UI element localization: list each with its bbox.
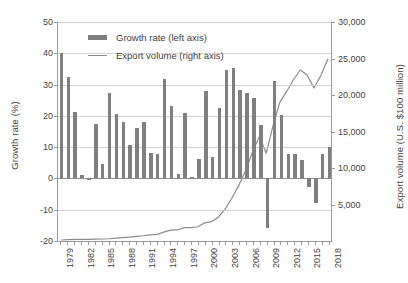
x-tick-mark-2017 [322,242,323,245]
bar-1983 [87,178,90,179]
bar-2012 [287,154,290,179]
legend-label-export-volume: Export volume (right axis) [116,50,224,61]
bar-2005 [238,90,241,179]
y-left-tick-label: 30 [43,80,53,90]
x-tick-label-2012: 2012 [292,248,302,268]
bar-1990 [135,128,138,178]
x-tick-mark-1980 [67,242,68,245]
gridline-50 [58,22,331,23]
x-tick-mark-2004 [232,242,233,245]
y-axis-right-title: Export volume (U.S. $100 million) [394,57,405,217]
x-tick-label-2003: 2003 [230,248,240,268]
bar-2018 [328,147,331,178]
x-tick-label-1985: 1985 [106,248,116,268]
bar-1979 [60,53,63,178]
x-tick-mark-2003 [225,242,226,245]
bar-1996 [177,174,180,179]
x-tick-mark-1985 [102,242,103,245]
x-tick-mark-1995 [170,242,171,245]
x-tick-mark-1989 [129,242,130,245]
bar-2007 [252,98,255,178]
gridline-30 [58,85,331,86]
bar-1980 [67,77,70,179]
x-tick-mark-2001 [212,242,213,245]
bar-1993 [156,154,159,179]
bar-1984 [94,124,97,179]
bar-1982 [80,175,83,178]
y-right-tick-mark [331,22,335,23]
legend-item-growth-rate: Growth rate (left axis) [88,30,224,45]
y-right-tick-label: 25,000 [338,54,366,64]
bar-2000 [204,91,207,178]
x-tick-mark-1984 [95,242,96,245]
bar-1995 [170,106,173,178]
gridline--10 [58,210,331,211]
y-left-tick-label: -10 [40,205,53,215]
y-left-tick-mark [54,85,58,86]
x-tick-mark-2007 [253,242,254,245]
x-tick-mark-1986 [109,242,110,245]
x-tick-label-2009: 2009 [271,248,281,268]
x-tick-mark-1999 [198,242,199,245]
x-tick-mark-1993 [157,242,158,245]
x-tick-mark-2006 [246,242,247,245]
y-right-tick-mark [331,132,335,133]
legend-bar-swatch-icon [88,35,107,40]
y-left-tick-mark [54,22,58,23]
bar-1986 [108,93,111,178]
y-left-tick-label: 0 [48,173,53,183]
x-tick-label-1994: 1994 [168,248,178,268]
x-tick-mark-2012 [287,242,288,245]
bar-1991 [142,122,145,178]
y-left-tick-mark [54,116,58,117]
x-tick-mark-2002 [219,242,220,245]
bar-2003 [225,70,228,178]
bar-2010 [273,81,276,179]
y-left-tick-mark [54,53,58,54]
bar-2015 [307,178,310,187]
bar-1998 [190,177,193,179]
bar-1981 [73,112,76,179]
x-tick-mark-1981 [74,242,75,245]
bar-2016 [314,178,317,202]
x-tick-mark-2013 [294,242,295,245]
x-tick-mark-1982 [81,242,82,245]
bar-2002 [218,108,221,178]
legend-label-growth-rate: Growth rate (left axis) [116,32,207,43]
y-left-tick-label: 10 [43,142,53,152]
bar-1987 [115,114,118,178]
x-tick-label-2006: 2006 [251,248,261,268]
chart-legend: Growth rate (left axis) Export volume (r… [88,30,224,66]
legend-line-swatch-icon [88,55,107,56]
x-tick-mark-1996 [177,242,178,245]
x-tick-mark-2015 [308,242,309,245]
x-tick-mark-1998 [191,242,192,245]
x-tick-mark-1997 [184,242,185,245]
x-tick-mark-2018 [329,242,330,245]
bar-1997 [183,113,186,179]
y-left-tick-mark [54,178,58,179]
x-axis: 1979198219851988199119941997200020032006… [57,241,332,242]
bar-2011 [280,115,283,179]
x-tick-mark-2005 [239,242,240,245]
x-tick-mark-2009 [267,242,268,245]
x-tick-mark-1991 [143,242,144,245]
y-left-tick-mark [54,210,58,211]
y-right-tick-label: 30,000 [338,17,366,27]
x-tick-mark-1987 [115,242,116,245]
x-tick-mark-2008 [260,242,261,245]
bar-2017 [321,154,324,179]
x-tick-label-1991: 1991 [147,248,157,268]
x-tick-mark-1983 [88,242,89,245]
x-tick-mark-1979 [60,242,61,245]
bar-2008 [259,125,262,179]
y-left-tick-label: 20 [43,111,53,121]
y-right-tick-label: 20,000 [338,90,366,100]
x-tick-label-2015: 2015 [312,248,322,268]
x-tick-label-1979: 1979 [65,248,75,268]
x-tick-mark-1992 [150,242,151,245]
y-left-tick-label: 40 [43,48,53,58]
x-tick-mark-1990 [136,242,137,245]
bar-2006 [245,93,248,178]
x-tick-mark-2000 [205,242,206,245]
